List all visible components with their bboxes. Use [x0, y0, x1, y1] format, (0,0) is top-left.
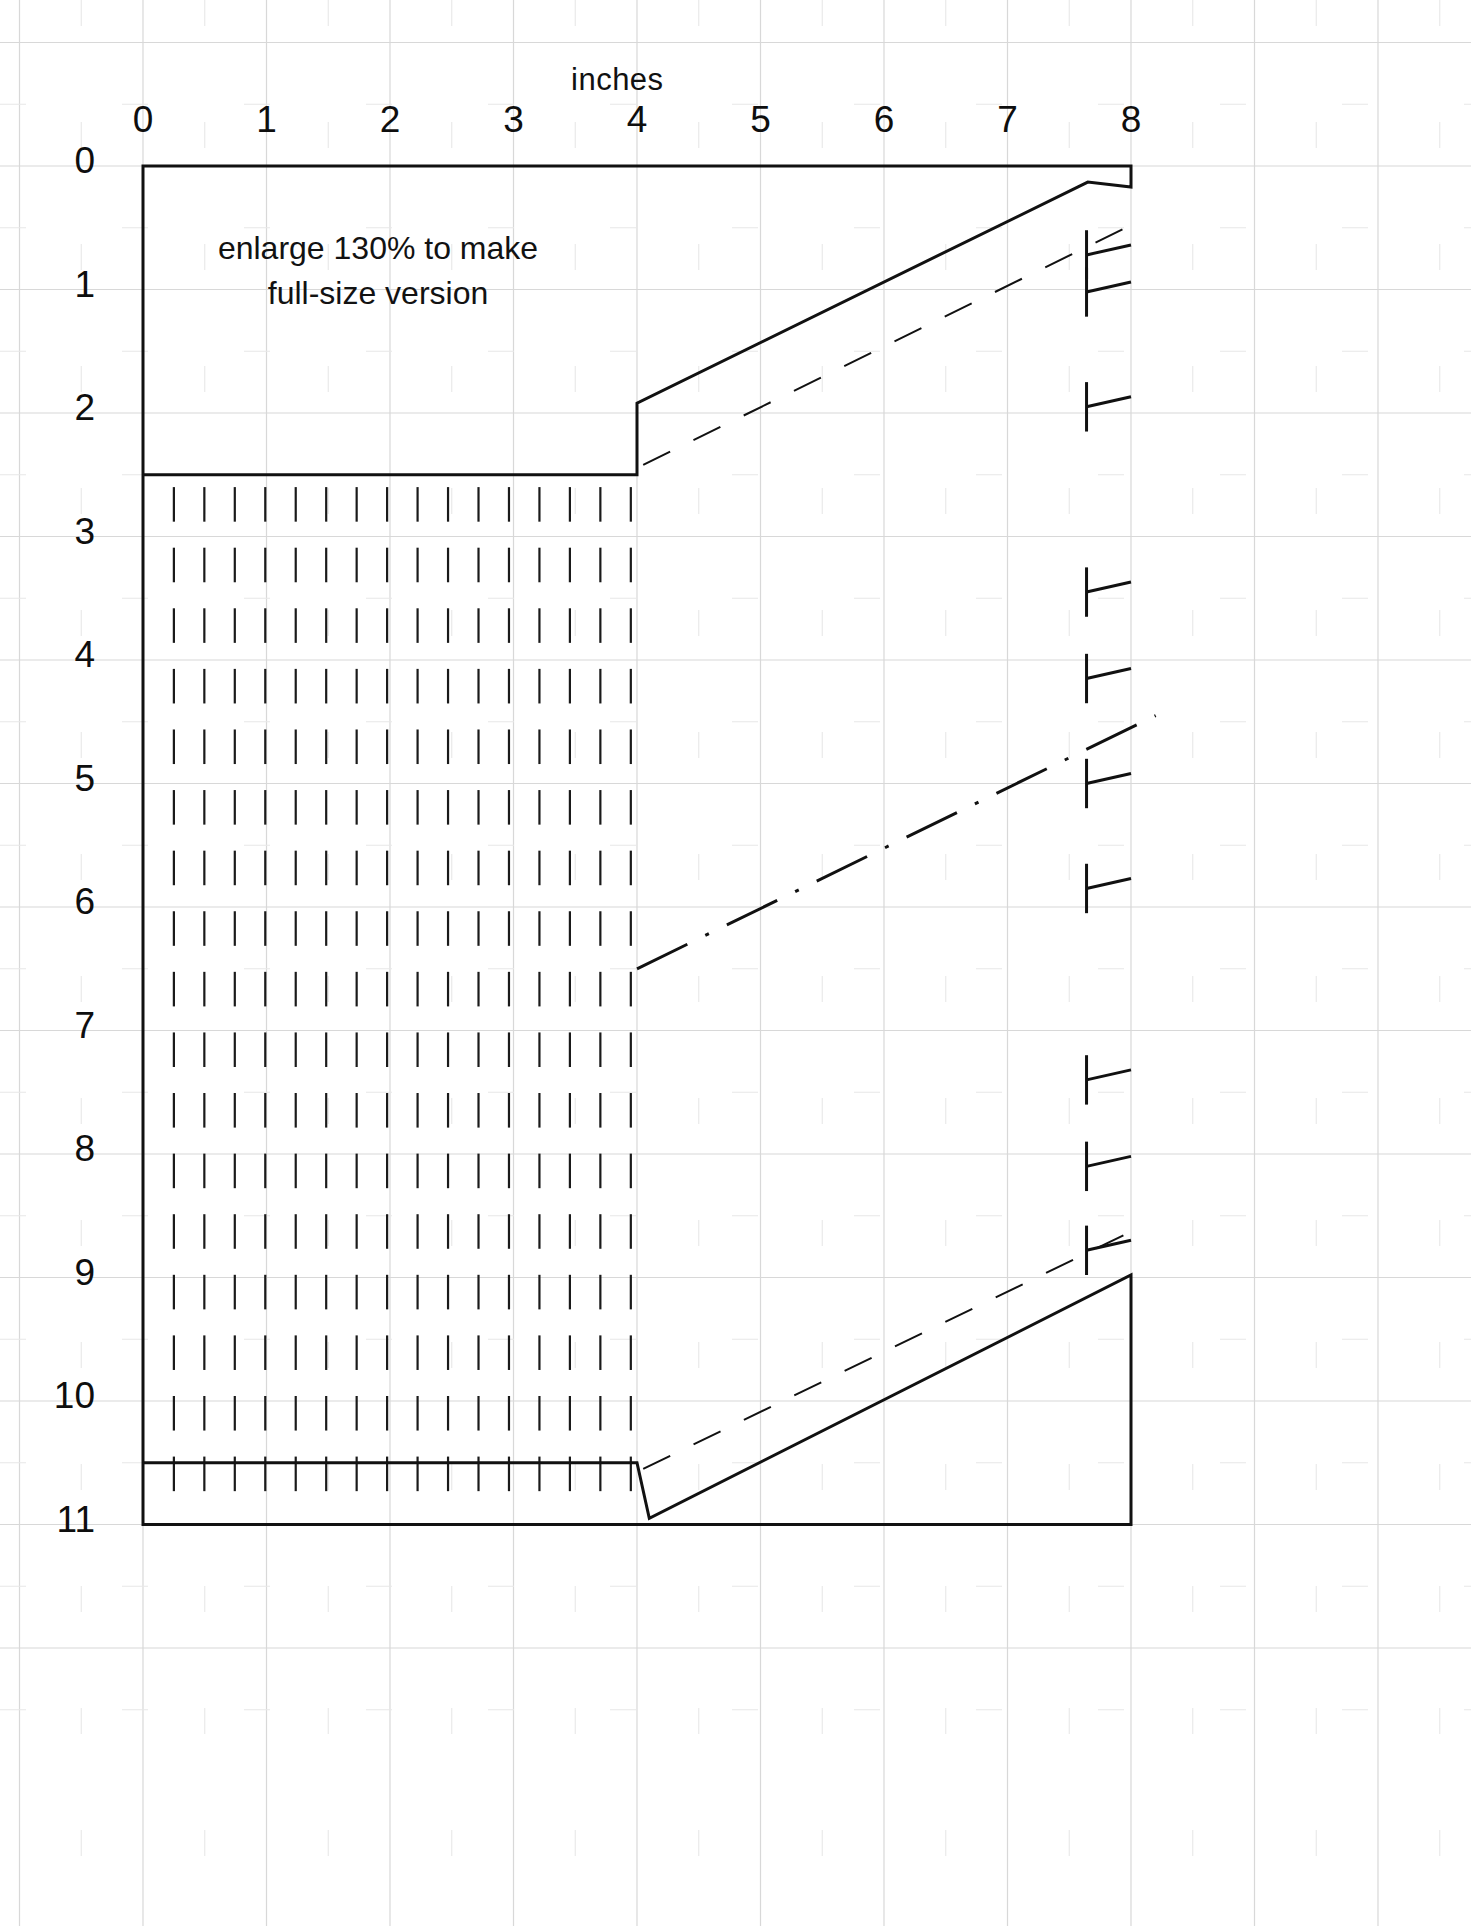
enlarge-annotation: enlarge 130% to make full-size version: [218, 226, 538, 317]
lower-stitch-guide: [643, 1226, 1143, 1469]
annotation-line-1: enlarge 130% to make: [218, 226, 538, 271]
h-ruler-label-6: 6: [854, 99, 914, 141]
notch-arm: [1087, 582, 1131, 592]
notch-arm: [1087, 1070, 1131, 1080]
v-ruler-label-6: 6: [25, 881, 95, 923]
seam-notch: [1087, 654, 1131, 703]
fold-line: [637, 716, 1156, 969]
h-ruler-label-3: 3: [484, 99, 544, 141]
notch-arm: [1087, 669, 1131, 679]
v-ruler-label-4: 4: [25, 634, 95, 676]
v-ruler-label-1: 1: [25, 264, 95, 306]
v-ruler-label-0: 0: [25, 140, 95, 182]
seam-notch: [1087, 1055, 1131, 1104]
annotation-line-2: full-size version: [218, 271, 538, 316]
h-ruler-label-8: 8: [1101, 99, 1161, 141]
notch-arm: [1087, 397, 1131, 407]
v-ruler-label-9: 9: [25, 1252, 95, 1294]
pattern-sheet: inches 012345678 01234567891011 enlarge …: [0, 0, 1471, 1926]
v-ruler-label-2: 2: [25, 387, 95, 429]
seam-notch: [1087, 382, 1131, 431]
seam-notch: [1087, 864, 1131, 913]
notch-arm: [1087, 774, 1131, 784]
v-ruler-label-5: 5: [25, 758, 95, 800]
h-ruler-label-7: 7: [978, 99, 1038, 141]
notch-arm: [1087, 282, 1131, 292]
v-ruler-label-3: 3: [25, 511, 95, 553]
notch-arm: [1087, 245, 1131, 255]
h-ruler-label-5: 5: [731, 99, 791, 141]
v-ruler-label-10: 10: [25, 1375, 95, 1417]
seam-notch: [1087, 1142, 1131, 1191]
seam-notch: [1087, 1226, 1131, 1275]
h-ruler-label-1: 1: [237, 99, 297, 141]
gather-tick-grid: [174, 487, 631, 1491]
seam-notch: [1087, 230, 1131, 279]
notch-marks: [1087, 230, 1131, 1275]
upper-stitch-guide: [643, 219, 1143, 465]
seam-notch: [1087, 267, 1131, 316]
notch-arm: [1087, 1156, 1131, 1166]
h-ruler-label-0: 0: [113, 99, 173, 141]
v-ruler-label-11: 11: [25, 1499, 95, 1541]
seam-notch: [1087, 567, 1131, 616]
v-ruler-label-8: 8: [25, 1128, 95, 1170]
notch-arm: [1087, 878, 1131, 888]
ruler-title: inches: [571, 62, 664, 98]
h-ruler-label-2: 2: [360, 99, 420, 141]
h-ruler-label-4: 4: [607, 99, 667, 141]
v-ruler-label-7: 7: [25, 1005, 95, 1047]
